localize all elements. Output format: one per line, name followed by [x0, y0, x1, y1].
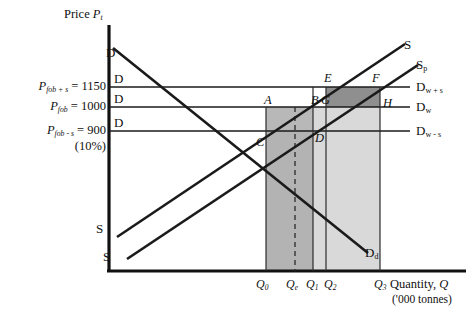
point-label-f: F	[372, 72, 380, 85]
world-demand-label-dw-plus-s: Dw + s	[416, 80, 443, 94]
line-label-d-bottom: D	[114, 116, 123, 130]
supply-demand-chart	[0, 0, 472, 313]
line-label-d-top: D	[114, 72, 123, 86]
supply-curve-label-s-end: S	[404, 38, 411, 52]
quantity-tick-q3: Q3	[374, 278, 386, 291]
line-label-d-mid: D	[114, 92, 123, 106]
price-label-p-fob: Pfob = 1000	[0, 100, 106, 113]
point-label-b: B	[311, 94, 319, 107]
demand-curve-label-dd: Dd	[365, 246, 378, 260]
price-label-p-fob-plus-s: Pfob + s = 1150	[0, 80, 106, 93]
supply-curve-label-s-lower-start: S	[103, 250, 110, 264]
quantity-tick-q0: Q0	[256, 278, 268, 291]
percent-note: (10%)	[0, 140, 106, 153]
point-label-d: D	[315, 132, 324, 145]
point-label-c: C	[256, 136, 264, 149]
quantity-tick-qe: Qe	[286, 278, 298, 291]
point-label-e: E	[324, 72, 332, 85]
point-label-g: G	[321, 94, 330, 107]
x-axis-title: Quantity, Q	[390, 278, 448, 291]
diagram-canvas: Price Pt Pfob + s = 1150 Pfob = 1000 Pfo…	[0, 0, 472, 313]
world-demand-label-dw: Dw	[416, 100, 431, 114]
price-label-p-fob-minus-s: Pfob - s = 900	[0, 124, 106, 137]
demand-curve-label-top: D	[106, 46, 115, 60]
point-label-h: H	[383, 97, 392, 110]
supply-curve-label-sp-end: Sp	[416, 58, 427, 72]
y-axis-title: Price Pt	[64, 8, 103, 21]
quantity-tick-q2: Q2	[324, 278, 336, 291]
x-axis-units: ('000 tonnes)	[392, 293, 452, 305]
quantity-tick-q1: Q1	[306, 278, 318, 291]
supply-curve-label-s-upper-start: S	[96, 222, 103, 236]
point-label-a: A	[264, 94, 272, 107]
world-demand-label-dw-minus-s: Dw - s	[416, 124, 441, 138]
